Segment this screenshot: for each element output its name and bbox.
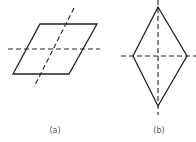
figure-b — [121, 0, 196, 115]
diagram-canvas — [0, 0, 196, 142]
figure-label-a: (a) — [49, 126, 60, 135]
figure-a — [8, 8, 100, 87]
figure-label-b: (b) — [153, 126, 164, 135]
diagonal-dashed-axis — [34, 8, 74, 87]
